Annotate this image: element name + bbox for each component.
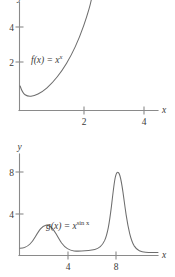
bottom-chart-svg: 8 4 4 8 x y g(x) = xsin x bbox=[0, 138, 175, 277]
top-chart-x-axis-label: x bbox=[161, 105, 167, 115]
top-chart-y-axis-label: y bbox=[16, 0, 22, 3]
top-chart-y-tick-label-4: 4 bbox=[9, 23, 14, 33]
bottom-chart-x-tick-label-4: 4 bbox=[66, 262, 71, 272]
bottom-chart-curve-label: g(x) = xsin x bbox=[46, 219, 90, 232]
bottom-chart-curve-gx bbox=[20, 172, 158, 252]
top-chart-y-tick-label-2: 2 bbox=[9, 58, 14, 68]
top-chart-svg: 2 4 2 4 x y f(x) = xx bbox=[0, 0, 175, 138]
figure-top-chart: 2 4 2 4 x y f(x) = xx bbox=[0, 0, 175, 138]
bottom-chart-y-tick-label-8: 8 bbox=[9, 168, 14, 178]
bottom-chart-x-tick-label-8: 8 bbox=[114, 262, 119, 272]
top-chart-curve-label: f(x) = xx bbox=[31, 53, 63, 66]
bottom-chart-curve-label-main: g(x) = x bbox=[46, 221, 77, 232]
figure-bottom-chart: 8 4 4 8 x y g(x) = xsin x bbox=[0, 138, 175, 277]
top-chart-curve-fx bbox=[20, 0, 91, 96]
bottom-chart-curve-label-exponent: sin x bbox=[77, 219, 90, 226]
top-chart-curve-label-main: f(x) = x bbox=[31, 55, 60, 66]
top-chart-x-tick-label-4: 4 bbox=[142, 117, 147, 127]
bottom-chart-x-axis-label: x bbox=[161, 250, 167, 260]
bottom-chart-y-tick-label-4: 4 bbox=[9, 210, 14, 220]
top-chart-curve-label-exponent: x bbox=[59, 53, 63, 60]
bottom-chart-y-axis-label: y bbox=[16, 142, 22, 152]
top-chart-x-tick-label-2: 2 bbox=[82, 117, 87, 127]
